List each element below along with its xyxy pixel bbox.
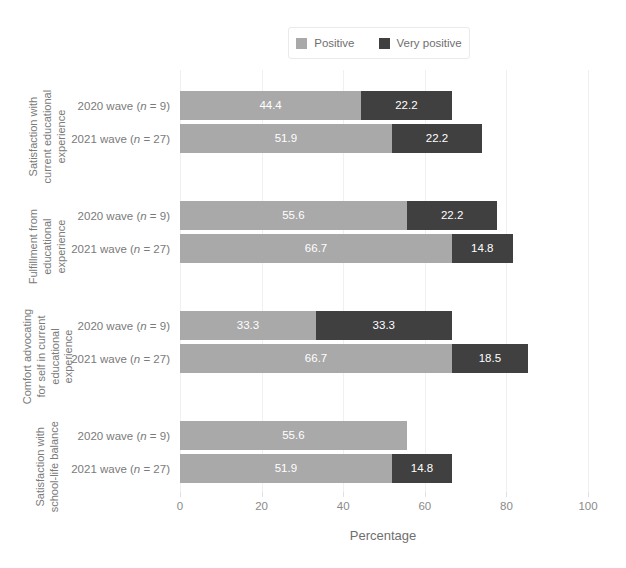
legend-swatch-very-positive: [379, 38, 390, 49]
stacked-bar-chart: Positive Very positive Satisfaction with…: [0, 0, 626, 568]
bar-value-label: 14.8: [471, 243, 493, 255]
gridline: [506, 70, 507, 492]
gridline: [588, 70, 589, 492]
bar-segment-positive[interactable]: 66.7: [180, 344, 452, 373]
bar-segment-very-positive[interactable]: 18.5: [452, 344, 527, 373]
bar-value-label: 22.2: [441, 210, 463, 222]
bar-value-label: 66.7: [305, 243, 327, 255]
wave-label: 2021 wave (n = 27): [40, 463, 170, 475]
bar-segment-positive[interactable]: 66.7: [180, 234, 452, 263]
bar-segment-positive[interactable]: 33.3: [180, 311, 316, 340]
bar-segment-very-positive[interactable]: 33.3: [316, 311, 452, 340]
plot-area: 44.422.251.922.255.622.266.714.833.333.3…: [180, 70, 588, 492]
legend-item-positive: Positive: [296, 37, 354, 49]
legend-label-very-positive: Very positive: [397, 37, 462, 49]
legend-label-positive: Positive: [314, 37, 354, 49]
wave-label: 2021 wave (n = 27): [40, 353, 170, 365]
bar-row[interactable]: 33.333.3: [180, 311, 452, 340]
wave-label: 2020 wave (n = 9): [40, 320, 170, 332]
wave-label: 2020 wave (n = 9): [40, 100, 170, 112]
bar-row[interactable]: 44.422.2: [180, 91, 452, 120]
x-axis-tick: [506, 492, 507, 497]
bar-value-label: 33.3: [373, 320, 395, 332]
bar-row[interactable]: 51.914.8: [180, 454, 452, 483]
bar-segment-positive[interactable]: 55.6: [180, 201, 407, 230]
bar-segment-positive[interactable]: 51.9: [180, 124, 392, 153]
bar-row[interactable]: 66.718.5: [180, 344, 528, 373]
bar-value-label: 44.4: [259, 100, 281, 112]
wave-label: 2021 wave (n = 27): [40, 133, 170, 145]
bar-value-label: 51.9: [275, 463, 297, 475]
bar-value-label: 55.6: [282, 430, 304, 442]
bar-value-label: 33.3: [237, 320, 259, 332]
wave-label: 2021 wave (n = 27): [40, 243, 170, 255]
bar-value-label: 18.5: [479, 353, 501, 365]
bar-value-label: 66.7: [305, 353, 327, 365]
x-axis-tick: [180, 492, 181, 497]
bar-segment-positive[interactable]: 44.4: [180, 91, 361, 120]
x-axis-tick: [588, 492, 589, 497]
x-axis-title: Percentage: [0, 528, 626, 543]
bar-row[interactable]: 55.6: [180, 421, 407, 450]
x-axis-tick-label: 60: [418, 500, 431, 512]
x-axis-tick: [262, 492, 263, 497]
x-axis-tick: [343, 492, 344, 497]
bar-segment-very-positive[interactable]: 22.2: [361, 91, 452, 120]
wave-label: 2020 wave (n = 9): [40, 210, 170, 222]
bar-row[interactable]: 66.714.8: [180, 234, 513, 263]
bar-value-label: 22.2: [426, 133, 448, 145]
bar-segment-positive[interactable]: 55.6: [180, 421, 407, 450]
bar-value-label: 22.2: [395, 100, 417, 112]
wave-label: 2020 wave (n = 9): [40, 430, 170, 442]
legend-swatch-positive: [296, 38, 307, 49]
bar-segment-very-positive[interactable]: 14.8: [452, 234, 512, 263]
bar-row[interactable]: 55.622.2: [180, 201, 497, 230]
bar-value-label: 55.6: [282, 210, 304, 222]
x-axis-line: [180, 492, 588, 493]
x-axis-title-label: Percentage: [350, 528, 417, 543]
x-axis-tick-label: 80: [500, 500, 513, 512]
x-axis-tick-label: 40: [337, 500, 350, 512]
x-axis-tick-label: 20: [255, 500, 268, 512]
bar-value-label: 51.9: [275, 133, 297, 145]
bar-segment-very-positive[interactable]: 22.2: [407, 201, 498, 230]
legend-item-very-positive: Very positive: [379, 37, 462, 49]
bar-row[interactable]: 51.922.2: [180, 124, 482, 153]
bar-value-label: 14.8: [411, 463, 433, 475]
chart-legend: Positive Very positive: [288, 27, 470, 59]
x-axis-tick-label: 0: [177, 500, 183, 512]
bar-segment-very-positive[interactable]: 14.8: [392, 454, 452, 483]
x-axis-tick-label: 100: [578, 500, 597, 512]
bar-segment-very-positive[interactable]: 22.2: [392, 124, 483, 153]
x-axis-tick: [425, 492, 426, 497]
bar-segment-positive[interactable]: 51.9: [180, 454, 392, 483]
